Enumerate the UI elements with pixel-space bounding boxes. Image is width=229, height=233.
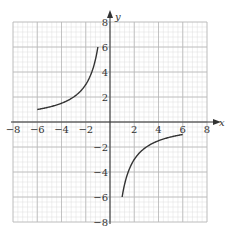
x-tick-label: −2 xyxy=(78,124,93,135)
y-tick-label: −4 xyxy=(93,167,108,178)
right-branch-curve xyxy=(122,135,183,198)
x-tick-label: −4 xyxy=(54,124,69,135)
x-tick-label: −8 xyxy=(6,124,21,135)
y-tick-label: 8 xyxy=(102,17,108,28)
x-tick-label: 8 xyxy=(204,124,210,135)
left-branch-curve xyxy=(37,47,98,110)
graph-of-hyperbola: −8−6−4−22468−8−6−4−22468 x y xyxy=(0,0,229,233)
x-tick-label: 2 xyxy=(131,124,137,135)
y-tick-label: −6 xyxy=(93,192,108,203)
y-tick-label: −2 xyxy=(93,142,108,153)
x-axis-label: x xyxy=(219,117,225,128)
x-tick-label: 4 xyxy=(155,124,161,135)
x-tick-label: −6 xyxy=(30,124,45,135)
y-axis-label: y xyxy=(114,11,121,22)
y-tick-label: 6 xyxy=(102,42,108,53)
y-tick-label: 4 xyxy=(102,67,108,78)
y-tick-label: 2 xyxy=(102,92,108,103)
x-tick-label: 6 xyxy=(180,124,186,135)
y-tick-label: −8 xyxy=(93,217,108,228)
